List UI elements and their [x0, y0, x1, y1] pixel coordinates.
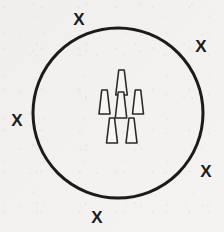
- x-mark-bottom-right: X: [200, 163, 211, 180]
- x-mark-top: X: [73, 11, 84, 28]
- x-mark-left: X: [11, 112, 22, 129]
- x-mark-top-right: X: [195, 38, 206, 55]
- cone-marker-middle-center: [115, 92, 127, 118]
- diagram-canvas: X X X X X: [0, 0, 224, 232]
- cone-marker-middle-left: [99, 90, 110, 114]
- cone-cluster: [99, 70, 144, 143]
- cone-marker-bottom-left: [107, 118, 118, 143]
- x-mark-bottom: X: [91, 209, 102, 226]
- cone-marker-bottom-right: [126, 118, 137, 143]
- figure-drawing: [0, 0, 224, 232]
- cone-marker-middle-right: [133, 90, 144, 114]
